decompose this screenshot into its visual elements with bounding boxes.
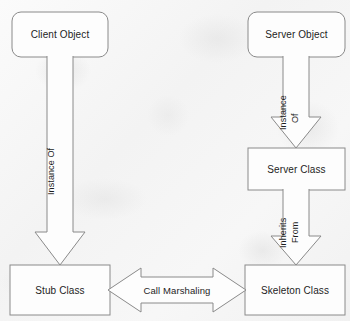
node-client-object[interactable]	[12, 12, 108, 57]
edge-stub-to-skeleton-arrow	[108, 268, 246, 312]
edge-serverclass-to-skeleton-arrow	[271, 189, 321, 265]
node-server-class[interactable]	[248, 148, 345, 190]
node-server-object[interactable]	[248, 12, 345, 57]
diagram-canvas: Client Object Server Object Server Class…	[0, 0, 350, 321]
node-skeleton-class[interactable]	[245, 265, 345, 315]
edge-client-to-stub-arrow	[35, 56, 85, 265]
edge-serverobject-to-serverclass-arrow	[271, 56, 321, 148]
node-stub-class[interactable]	[10, 265, 110, 315]
diagram-shape-layer	[0, 0, 350, 321]
